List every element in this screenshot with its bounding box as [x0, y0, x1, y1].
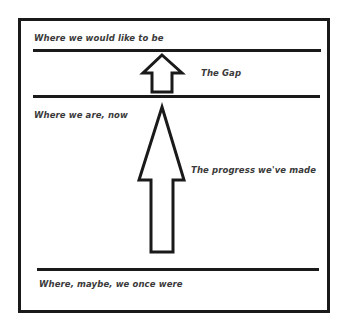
progress-arrow-icon: [139, 107, 184, 252]
arrows-layer: [0, 0, 348, 331]
gap-arrow-icon: [143, 55, 182, 92]
